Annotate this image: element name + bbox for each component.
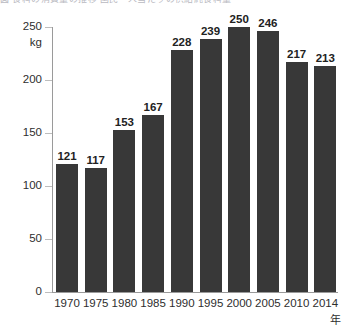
y-tick-mark bbox=[45, 292, 52, 293]
bar-chart: 図 食料の消費量の推移 国民一人当たりの供給純食料量 kg 0501001502… bbox=[0, 0, 354, 331]
y-tick-label: 50 bbox=[2, 233, 42, 244]
bar bbox=[142, 115, 164, 292]
y-tick-mark bbox=[45, 133, 52, 134]
bar bbox=[171, 50, 193, 292]
bar-value-label: 167 bbox=[133, 101, 173, 113]
bar bbox=[113, 130, 135, 292]
bar bbox=[85, 168, 107, 292]
y-tick-label: 0 bbox=[2, 286, 42, 297]
bar-value-label: 213 bbox=[305, 52, 345, 64]
y-tick-label: 100 bbox=[2, 180, 42, 191]
y-tick-mark bbox=[45, 186, 52, 187]
bar bbox=[257, 31, 279, 292]
bar bbox=[286, 62, 308, 292]
bar bbox=[228, 27, 250, 292]
cropped-header-label: 図 食料の消費量の推移 国民一人当たりの供給純食料量 bbox=[0, 0, 231, 4]
cropped-header-text: 図 食料の消費量の推移 国民一人当たりの供給純食料量 bbox=[0, 0, 354, 9]
bar bbox=[314, 66, 336, 292]
bar-value-label: 246 bbox=[248, 17, 288, 29]
bar bbox=[56, 164, 78, 292]
y-axis-unit-label: kg bbox=[10, 36, 42, 48]
y-tick-mark bbox=[45, 239, 52, 240]
x-axis-unit-label: 年 bbox=[330, 311, 341, 327]
y-tick-label: 250 bbox=[2, 21, 42, 32]
y-tick-mark bbox=[45, 27, 52, 28]
bar-value-label: 153 bbox=[104, 116, 144, 128]
y-tick-label: 150 bbox=[2, 127, 42, 138]
bar-value-label: 228 bbox=[162, 36, 202, 48]
bar bbox=[200, 39, 222, 292]
x-axis-line bbox=[52, 292, 338, 293]
bar-value-label: 239 bbox=[191, 25, 231, 37]
x-tick-label: 2014 bbox=[305, 297, 345, 309]
y-tick-label: 200 bbox=[2, 74, 42, 85]
y-tick-mark bbox=[45, 80, 52, 81]
bar-value-label: 117 bbox=[76, 154, 116, 166]
